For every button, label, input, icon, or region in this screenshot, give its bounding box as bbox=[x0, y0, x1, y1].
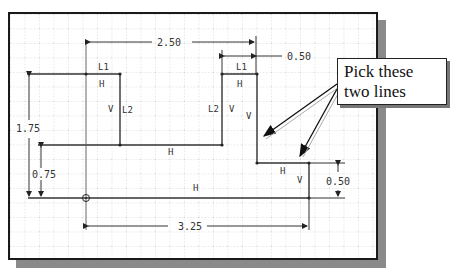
constraint-h-middle: H bbox=[168, 147, 173, 157]
constraint-L1-right: L1 bbox=[236, 62, 247, 72]
constraint-h-bottom: H bbox=[193, 183, 198, 193]
dim-1-75[interactable]: 1.75 bbox=[16, 123, 40, 134]
callout-text: Pick these two lines bbox=[344, 62, 413, 101]
sketch-drawing: 2.50 0.50 1.75 0.75 0.50 3.25 L1 L1 L2 L… bbox=[0, 0, 455, 270]
dim-0-75[interactable]: 0.75 bbox=[32, 169, 56, 180]
constraint-L1-left: L1 bbox=[98, 62, 109, 72]
constraint-h-top-left: H bbox=[99, 79, 104, 89]
constraint-L2-right: L2 bbox=[208, 104, 219, 114]
constraint-h-lower-right: H bbox=[280, 166, 285, 176]
dim-0-50-top[interactable]: 0.50 bbox=[287, 51, 311, 62]
dim-3-25[interactable]: 3.25 bbox=[178, 221, 202, 232]
callout-box: Pick these two lines bbox=[337, 58, 447, 105]
constraint-v-step: V bbox=[297, 175, 303, 185]
constraint-v-right-a: V bbox=[229, 104, 235, 114]
constraint-v-left: V bbox=[108, 104, 114, 114]
dim-2-50[interactable]: 2.50 bbox=[157, 37, 181, 48]
constraint-L2-left: L2 bbox=[122, 105, 133, 115]
constraint-v-right-b: V bbox=[246, 111, 252, 121]
constraint-h-top-right: H bbox=[237, 79, 242, 89]
dim-0-50-right[interactable]: 0.50 bbox=[326, 176, 350, 187]
